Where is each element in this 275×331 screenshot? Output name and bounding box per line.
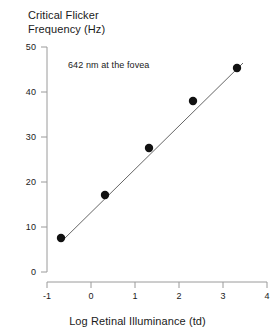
data-point <box>57 234 65 242</box>
figure-critical-flicker-frequency: Critical Flicker Frequency (Hz) 50 40 30… <box>0 0 275 331</box>
y-tick-label-0: 0 <box>10 267 36 277</box>
data-point <box>189 97 197 105</box>
x-tick-label-0: 0 <box>81 291 101 301</box>
x-tick-label-3: 3 <box>213 291 233 301</box>
x-axis-title: Log Retinal Illuminance (td) <box>0 315 275 327</box>
x-tick-label-1: 1 <box>125 291 145 301</box>
y-tick-label-50: 50 <box>10 42 36 52</box>
y-tick-label-30: 30 <box>10 132 36 142</box>
x-tick-label-2: 2 <box>169 291 189 301</box>
y-tick-label-10: 10 <box>10 222 36 232</box>
y-tick-label-20: 20 <box>10 177 36 187</box>
x-tick-label-4: 4 <box>257 291 275 301</box>
series-annotation: 642 nm at the fovea <box>68 60 149 70</box>
data-point <box>145 144 153 152</box>
data-point <box>233 64 241 72</box>
x-tick-label-minus1: -1 <box>37 291 57 301</box>
data-point <box>101 191 109 199</box>
fit-line <box>63 63 243 240</box>
plot-area <box>0 0 275 331</box>
y-tick-label-40: 40 <box>10 87 36 97</box>
